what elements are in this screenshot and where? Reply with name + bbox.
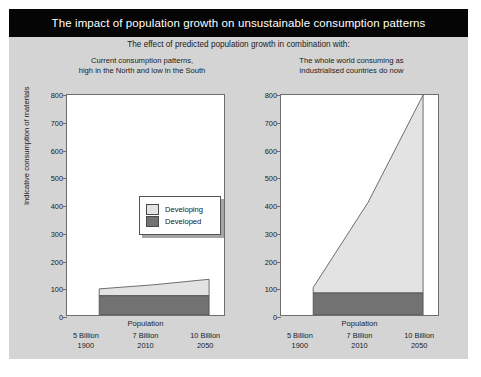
x-tick-labels-left: 5 Billion19007 Billion201010 Billion2050	[56, 331, 235, 351]
y-tick-mark	[277, 289, 281, 290]
x-tick-population: 5 Billion	[270, 331, 330, 341]
y-tick-label: 700	[265, 118, 277, 127]
y-tick-mark	[277, 317, 281, 318]
area-developing-right	[313, 95, 423, 293]
chart-subtitle: The effect of predicted population growt…	[9, 40, 468, 49]
x-tick-year: 2050	[389, 341, 449, 351]
legend-label-developing: Developing	[165, 205, 203, 214]
area-developed-left	[99, 296, 209, 315]
legend-left: Developing Developed	[139, 196, 221, 235]
y-tick-mark	[63, 206, 67, 207]
y-tick-mark	[277, 178, 281, 179]
y-tick-label: 200	[51, 257, 63, 266]
y-tick-label: 700	[51, 118, 63, 127]
y-tick-label: 400	[51, 202, 63, 211]
x-tick-population: 7 Billion	[330, 331, 390, 341]
legend-swatch-developed	[146, 216, 159, 227]
legend-item-developing: Developing	[146, 204, 213, 215]
area-chart-right	[281, 95, 438, 315]
y-tick-mark	[277, 206, 281, 207]
y-tick-mark	[277, 123, 281, 124]
x-tick-label: 5 Billion1900	[270, 331, 330, 351]
y-tick-mark	[63, 234, 67, 235]
y-tick-mark	[63, 151, 67, 152]
y-tick-label: 100	[51, 285, 63, 294]
area-developed-right	[313, 293, 423, 315]
x-tick-label: 7 Billion2010	[330, 331, 390, 351]
y-tick-mark	[63, 317, 67, 318]
y-tick-mark	[63, 123, 67, 124]
y-tick-mark	[63, 95, 67, 96]
panel-title-right: The whole world consuming as industriali…	[259, 56, 444, 75]
x-tick-population: 10 Billion	[175, 331, 235, 341]
y-tick-label: 500	[51, 174, 63, 183]
x-tick-population: 7 Billion	[116, 331, 176, 341]
x-tick-label: 5 Billion1900	[56, 331, 116, 351]
y-tick-mark	[63, 289, 67, 290]
y-tick-label: 300	[51, 229, 63, 238]
x-tick-label: 10 Billion2050	[389, 331, 449, 351]
panel-title-right-line2: industrialised countries do now	[259, 66, 444, 76]
y-tick-mark	[277, 151, 281, 152]
plot-area-right: Developing Developed 8007006005004003002…	[280, 94, 439, 316]
chart-title-bar: The impact of population growth on unsus…	[9, 9, 468, 37]
page-title: The impact of population growth on unsus…	[52, 17, 426, 29]
y-tick-mark	[277, 234, 281, 235]
x-tick-labels-right: 5 Billion19007 Billion201010 Billion2050	[270, 331, 449, 351]
y-tick-mark	[277, 95, 281, 96]
x-tick-population: 10 Billion	[389, 331, 449, 341]
x-tick-label: 10 Billion2050	[175, 331, 235, 351]
x-tick-population: 5 Billion	[56, 331, 116, 341]
legend-swatch-developing	[146, 204, 159, 215]
legend-item-developed: Developed	[146, 216, 213, 227]
y-tick-label: 200	[265, 257, 277, 266]
x-tick-year: 1900	[56, 341, 116, 351]
y-tick-mark	[63, 262, 67, 263]
area-developing-left	[99, 279, 209, 296]
x-axis-label-right: Population	[280, 319, 439, 328]
panel-title-left: Current consumption patterns, high in th…	[47, 56, 237, 75]
x-axis-label-left: Population	[66, 319, 225, 328]
x-tick-year: 2010	[116, 341, 176, 351]
y-tick-label: 400	[265, 202, 277, 211]
plot-area-left: Developing Developed 8007006005004003002…	[66, 94, 225, 316]
x-tick-label: 7 Billion2010	[116, 331, 176, 351]
panel-title-left-line2: high in the North and low in the South	[47, 66, 237, 76]
figure-container: The impact of population growth on unsus…	[9, 9, 468, 359]
x-tick-year: 2050	[175, 341, 235, 351]
x-tick-year: 1900	[270, 341, 330, 351]
y-axis-label: Indicative consumption of materials	[22, 86, 31, 205]
legend-label-developed: Developed	[165, 217, 201, 226]
y-tick-label: 800	[51, 91, 63, 100]
y-tick-mark	[277, 262, 281, 263]
x-tick-year: 2010	[330, 341, 390, 351]
y-tick-label: 100	[265, 285, 277, 294]
y-tick-label: 500	[265, 174, 277, 183]
y-tick-label: 300	[265, 229, 277, 238]
panel-title-left-line1: Current consumption patterns,	[47, 56, 237, 66]
y-tick-mark	[63, 178, 67, 179]
y-tick-label: 600	[51, 146, 63, 155]
panel-title-right-line1: The whole world consuming as	[259, 56, 444, 66]
y-tick-label: 600	[265, 146, 277, 155]
y-tick-label: 800	[265, 91, 277, 100]
